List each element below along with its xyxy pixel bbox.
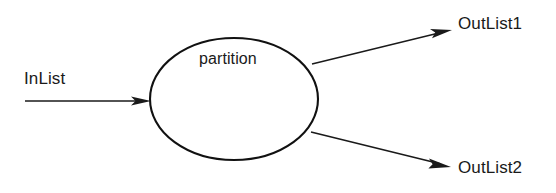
diagram-canvas: InList partition OutList1 OutList2 <box>0 0 556 193</box>
edge-partition-to-outlist1 <box>312 29 452 64</box>
edge-partition-to-outlist2 <box>311 132 451 169</box>
edge-line-outlist2 <box>311 132 441 164</box>
output-label-outlist1: OutList1 <box>458 15 522 32</box>
node-label-partition: partition <box>199 51 257 67</box>
output-label-outlist2: OutList2 <box>458 159 522 176</box>
edge-inlist-to-partition <box>25 97 151 106</box>
edge-line-outlist1 <box>312 32 443 64</box>
input-label-inlist: InList <box>24 70 65 87</box>
arrow-head-outlist2 <box>428 159 451 169</box>
